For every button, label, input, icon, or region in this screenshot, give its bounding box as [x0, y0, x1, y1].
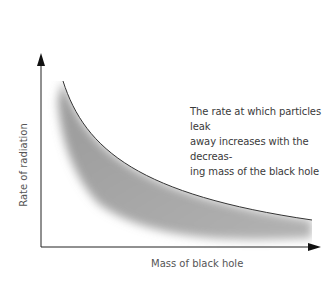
annotation-line: away increases with the decreas- — [190, 134, 330, 164]
y-axis-arrow-icon — [37, 53, 45, 66]
x-axis-label: Mass of black hole — [151, 258, 243, 269]
annotation-line: The rate at which particles leak — [190, 104, 330, 134]
annotation-line: ing mass of the black hole — [190, 164, 330, 179]
x-axis-arrow-icon — [308, 243, 321, 251]
annotation: The rate at which particles leak away in… — [190, 104, 330, 179]
y-axis-label: Rate of radiation — [18, 123, 29, 207]
